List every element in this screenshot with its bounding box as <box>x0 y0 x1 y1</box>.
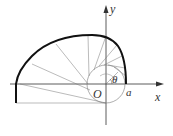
origin-label: O <box>93 88 102 100</box>
diagram-canvas <box>0 0 173 136</box>
involute-diagram: y x O a θ <box>0 0 173 136</box>
involute-curve <box>16 35 126 103</box>
y-axis-label: y <box>110 3 115 15</box>
x-axis-arrow-icon <box>156 82 164 87</box>
y-axis-arrow-icon <box>104 5 109 13</box>
a-label: a <box>126 87 132 98</box>
tangent-lines <box>16 35 126 103</box>
theta-label: θ <box>112 74 117 85</box>
x-axis-label: x <box>155 91 160 103</box>
